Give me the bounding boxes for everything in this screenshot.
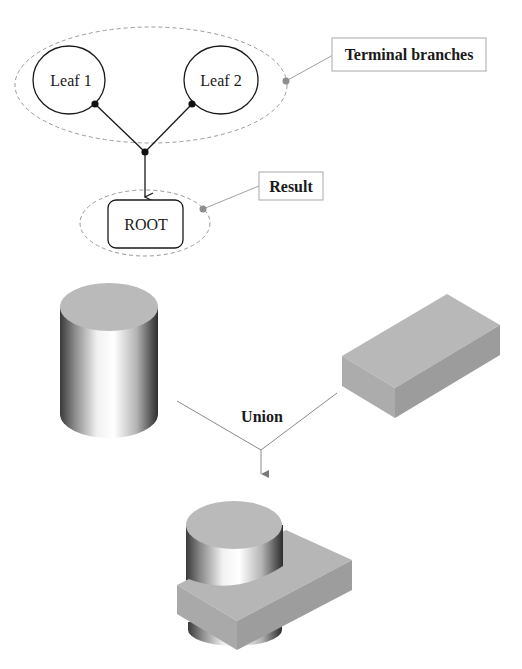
terminal-branches-group: Leaf 1 Leaf 2 [15,27,287,143]
box-solid [342,294,500,418]
edge-leaf2-junction [145,104,192,152]
csg-tree-diagram: Leaf 1 Leaf 2 ROOT Terminal branches Res… [0,0,522,669]
leaf-2-label: Leaf 2 [200,72,241,89]
cylinder-solid [60,283,158,438]
callout-dot [200,206,207,213]
result-label: Result [269,178,313,195]
leaf-1-label: Leaf 1 [50,72,91,89]
junction-dot [141,148,148,155]
cylinder-top-face [60,283,158,331]
terminal-branches-callout: Terminal branches [283,38,487,85]
leaf-1-port-dot [91,100,98,107]
result-callout: Result [200,172,324,213]
union-label: Union [241,408,283,425]
root-label: ROOT [124,216,168,233]
terminal-branches-label: Terminal branches [345,46,474,63]
union-operator: Union [177,393,337,474]
edge-leaf1-junction [95,104,145,152]
leaf-2-port-dot [188,100,195,107]
callout-dot [283,78,290,85]
cylinder-top-face [186,501,282,549]
tree-edges [91,100,195,197]
union-result-solid [177,501,352,650]
root-group: ROOT [80,190,210,256]
